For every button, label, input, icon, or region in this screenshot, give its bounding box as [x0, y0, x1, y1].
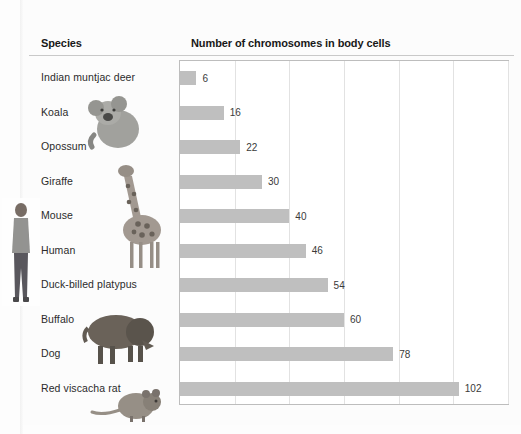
species-label: Duck-billed platypus — [41, 278, 137, 290]
species-label: Human — [41, 244, 75, 256]
bar-value-label: 16 — [230, 107, 241, 118]
species-label: Giraffe — [41, 175, 73, 187]
bar-value-label: 22 — [246, 142, 257, 153]
bar-row: 102 — [180, 372, 508, 407]
bar — [180, 244, 306, 258]
species-label: Red viscacha rat — [41, 382, 121, 394]
species-row: Red viscacha rat — [41, 371, 176, 406]
species-label: Dog — [41, 347, 61, 359]
species-label-column: Indian muntjac deerKoalaOpossumGiraffeMo… — [41, 60, 176, 405]
bar-row: 54 — [180, 268, 508, 303]
bar-value-label: 30 — [268, 176, 279, 187]
gridline — [508, 61, 509, 404]
bar-row: 46 — [180, 234, 508, 269]
bar-value-label: 60 — [350, 314, 361, 325]
bar-value-label: 6 — [202, 73, 208, 84]
species-label: Buffalo — [41, 313, 74, 325]
chart-title: Number of chromosomes in body cells — [191, 37, 390, 49]
bar — [180, 106, 224, 120]
species-row: Dog — [41, 336, 176, 371]
species-label: Mouse — [41, 209, 73, 221]
bar-value-label: 40 — [295, 211, 306, 222]
bar — [180, 278, 328, 292]
bar-row: 6 — [180, 61, 508, 96]
bar-value-label: 54 — [334, 280, 345, 291]
bar — [180, 209, 289, 223]
species-row: Indian muntjac deer — [41, 60, 176, 95]
species-column-header: Species — [41, 37, 82, 49]
species-row: Mouse — [41, 198, 176, 233]
species-row: Koala — [41, 95, 176, 130]
bar-value-label: 46 — [312, 245, 323, 256]
bar-value-label: 78 — [399, 349, 410, 360]
bar — [180, 140, 240, 154]
bar-row: 40 — [180, 199, 508, 234]
species-row: Duck-billed platypus — [41, 267, 176, 302]
bar-row: 30 — [180, 165, 508, 200]
bar-series: 61622304046546078102 — [180, 61, 508, 404]
bar — [180, 382, 459, 396]
bar-row: 16 — [180, 96, 508, 131]
species-row: Human — [41, 233, 176, 268]
bar-row: 78 — [180, 337, 508, 372]
bar — [180, 71, 196, 85]
bar-value-label: 102 — [465, 383, 482, 394]
species-label: Opossum — [41, 140, 87, 152]
species-row: Opossum — [41, 129, 176, 164]
species-row: Buffalo — [41, 302, 176, 337]
species-row: Giraffe — [41, 164, 176, 199]
species-label: Koala — [41, 106, 68, 118]
species-label: Indian muntjac deer — [41, 71, 135, 83]
bar-row: 60 — [180, 303, 508, 338]
bar — [180, 313, 344, 327]
bar — [180, 175, 262, 189]
bar-row: 22 — [180, 130, 508, 165]
chart-plot-area: 61622304046546078102 — [179, 60, 509, 405]
header-divider — [29, 55, 514, 56]
page: Species Number of chromosomes in body ce… — [0, 0, 521, 434]
bar — [180, 347, 393, 361]
